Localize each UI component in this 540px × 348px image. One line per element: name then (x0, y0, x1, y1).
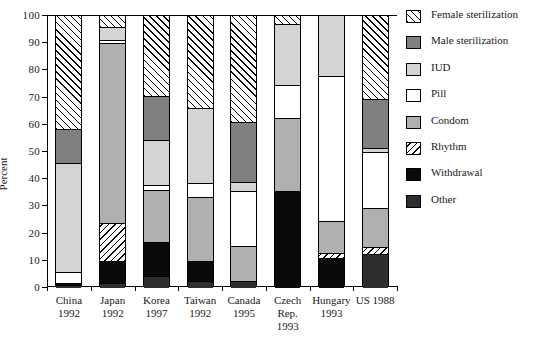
bar-segment-other (144, 276, 169, 288)
legend-label: Male sterilization (431, 34, 508, 46)
legend-label: IUD (431, 61, 451, 73)
y-axis-title: Percent (0, 158, 9, 191)
y-tick-mark (42, 205, 47, 206)
bar-segment-condom (231, 246, 256, 281)
x-tick-mark (222, 286, 223, 291)
bar-segment-condom (100, 43, 125, 223)
legend-item-female-sterilization[interactable]: Female sterilization (406, 8, 540, 34)
bar-segment-male-sterilization (231, 122, 256, 182)
legend-item-rhythm[interactable]: Rhythm (406, 140, 540, 166)
bar-segment-rhythm (100, 223, 125, 261)
bar-hungary-1993[interactable] (318, 15, 345, 287)
x-tick-mark (266, 286, 267, 291)
x-tick-mark (135, 286, 136, 291)
legend-swatch-icon (406, 89, 421, 102)
bar-segment-female-sterilization (144, 16, 169, 96)
bar-segment-pill (275, 85, 300, 118)
bar-segment-female-sterilization (231, 16, 256, 122)
bar-segment-condom (188, 197, 213, 261)
legend-swatch-icon (406, 36, 421, 49)
y-tick-mark (42, 178, 47, 179)
bar-segment-female-sterilization (275, 16, 300, 24)
y-tick-label: 70 (28, 91, 40, 103)
y-tick-label: 10 (28, 254, 40, 266)
y-tick-mark (42, 97, 47, 98)
y-tick-label: 0 (34, 281, 40, 293)
legend-swatch-icon (406, 168, 421, 181)
legend-label: Rhythm (431, 140, 466, 152)
bar-segment-condom (319, 221, 344, 252)
x-axis-label-line: 1993 (258, 320, 318, 333)
x-tick-mark (47, 286, 48, 291)
bar-segment-pill (319, 76, 344, 222)
legend-item-condom[interactable]: Condom (406, 114, 540, 140)
x-tick-mark (397, 286, 398, 291)
bar-taiwan-1992[interactable] (187, 15, 214, 287)
y-tick-mark (42, 69, 47, 70)
legend-label: Pill (431, 87, 446, 99)
bar-canada-1995[interactable] (230, 15, 257, 287)
legend-item-pill[interactable]: Pill (406, 87, 540, 113)
bar-segment-female-sterilization (363, 16, 388, 99)
y-tick-label: 80 (28, 63, 40, 75)
bar-czech-rep-1993[interactable] (274, 15, 301, 287)
y-tick-mark (42, 151, 47, 152)
y-tick-mark (42, 124, 47, 125)
legend-swatch-icon (406, 10, 421, 23)
legend-item-iud[interactable]: IUD (406, 61, 540, 87)
x-tick-mark (353, 286, 354, 291)
bar-segment-withdrawal (275, 191, 300, 288)
bar-segment-withdrawal (144, 242, 169, 276)
legend-label: Other (431, 193, 456, 205)
legend-label: Withdrawal (431, 166, 482, 178)
y-tick-label: 20 (28, 227, 40, 239)
bar-japan-1992[interactable] (99, 15, 126, 287)
y-tick-label: 30 (28, 199, 40, 211)
y-axis-line (47, 15, 48, 287)
legend-label: Condom (431, 114, 469, 126)
bar-segment-condom (363, 208, 388, 247)
legend-item-male-sterilization[interactable]: Male sterilization (406, 34, 540, 60)
legend-swatch-icon (406, 116, 421, 129)
y-tick-label: 100 (23, 9, 40, 21)
bar-segment-withdrawal (319, 258, 344, 288)
y-tick-label: 90 (28, 36, 40, 48)
bar-segment-iud (188, 108, 213, 183)
x-axis-label-line: US 1988 (345, 294, 405, 307)
x-tick-mark (178, 286, 179, 291)
bar-segment-female-sterilization (100, 16, 125, 27)
stacked-bar-chart: 0102030405060708090100 Percent China1992… (0, 0, 540, 348)
x-tick-mark (310, 286, 311, 291)
legend-swatch-icon (406, 63, 421, 76)
plot-area: 0102030405060708090100 (47, 15, 397, 287)
bar-segment-male-sterilization (56, 129, 81, 163)
bar-segment-iud (231, 182, 256, 192)
bar-segment-male-sterilization (363, 99, 388, 148)
bar-segment-female-sterilization (188, 16, 213, 108)
bar-segment-condom (144, 190, 169, 242)
y-tick-mark (42, 233, 47, 234)
bar-segment-condom (275, 118, 300, 191)
legend-item-other[interactable]: Other (406, 193, 540, 219)
bar-us-1988[interactable] (362, 15, 389, 287)
y-tick-label: 60 (28, 118, 40, 130)
y-tick-label: 40 (28, 172, 40, 184)
legend-swatch-icon (406, 142, 421, 155)
bar-segment-withdrawal (100, 261, 125, 283)
bar-segment-other (56, 285, 81, 288)
bar-segment-pill (363, 152, 388, 208)
y-tick-label: 50 (28, 145, 40, 157)
bar-segment-other (231, 281, 256, 288)
bar-segment-pill (231, 191, 256, 245)
bar-segment-pill (188, 183, 213, 197)
bar-segment-iud (319, 16, 344, 76)
legend-swatch-icon (406, 195, 421, 208)
bar-china-1992[interactable] (55, 15, 82, 287)
bar-segment-withdrawal (188, 261, 213, 281)
bar-segment-male-sterilization (144, 96, 169, 140)
x-tick-mark (91, 286, 92, 291)
bar-segment-rhythm (363, 247, 388, 254)
bar-segment-iud (275, 24, 300, 85)
legend-item-withdrawal[interactable]: Withdrawal (406, 166, 540, 192)
bar-korea-1997[interactable] (143, 15, 170, 287)
